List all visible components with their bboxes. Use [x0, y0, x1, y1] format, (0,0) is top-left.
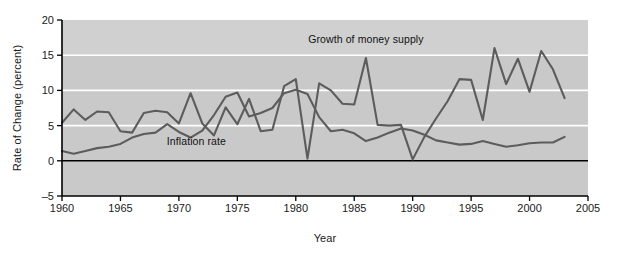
- y-tick-label: 5: [18, 120, 54, 132]
- series-annotation-1: Growth of money supply: [308, 33, 423, 45]
- y-tick-label: 10: [18, 84, 54, 96]
- series-annotation-2: Inflation rate: [167, 135, 226, 147]
- y-tick-label: 0: [18, 155, 54, 167]
- x-tick-label: 1990: [400, 202, 424, 214]
- x-tick-label: 1960: [50, 202, 74, 214]
- y-axis-title: Rate of Change (percent): [8, 20, 26, 196]
- x-tick-label: 1985: [342, 202, 366, 214]
- x-tick-label: 1995: [459, 202, 483, 214]
- x-tick-label: 1980: [284, 202, 308, 214]
- x-axis-title: Year: [62, 232, 588, 244]
- x-tick-label: 1975: [225, 202, 249, 214]
- x-tick-label: 1970: [167, 202, 191, 214]
- x-tick-label: 2005: [576, 202, 600, 214]
- x-tick-label: 2000: [517, 202, 541, 214]
- chart-figure: Rate of Change (percent) Year 1960196519…: [0, 0, 619, 255]
- y-tick-label: 20: [18, 14, 54, 26]
- y-tick-label: –5: [18, 190, 54, 202]
- x-tick-label: 1965: [108, 202, 132, 214]
- y-tick-label: 15: [18, 49, 54, 61]
